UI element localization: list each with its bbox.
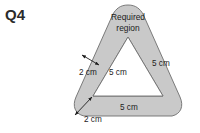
required-region-label-line2: region (116, 23, 140, 33)
side-label-left: 5 cm (109, 68, 127, 77)
side-label-right: 5 cm (152, 59, 170, 68)
offset-label-lower-left: 2 cm (84, 115, 102, 124)
geometry-diagram: Required region 5 cm 5 cm 5 cm 2 cm 2 cm (0, 0, 200, 133)
side-label-bottom: 5 cm (120, 103, 138, 112)
required-region-label-line1: Required (111, 12, 145, 22)
offset-label-upper-left: 2 cm (79, 68, 97, 77)
figure-container: Q4 Required region 5 cm 5 cm 5 cm 2 (0, 0, 200, 133)
